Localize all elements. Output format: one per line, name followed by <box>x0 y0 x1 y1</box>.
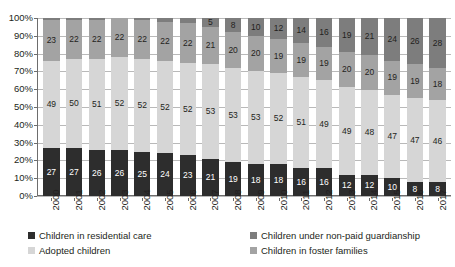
bar-column[interactable]: 274923 <box>43 18 59 196</box>
bar-segment[interactable]: 22 <box>134 20 150 59</box>
x-axis-tick-label: 2003 <box>120 189 130 210</box>
bar-segment-value-label: 24 <box>387 35 396 44</box>
bar-column[interactable]: 2153215 <box>202 18 218 196</box>
bar-segment[interactable]: 48 <box>361 90 377 175</box>
bar-segment[interactable]: 47 <box>407 98 423 182</box>
bar-segment[interactable]: 20 <box>248 36 264 71</box>
bar-column[interactable]: 2352223 <box>180 18 196 196</box>
bar-segment[interactable]: 51 <box>293 77 309 168</box>
bar-segment[interactable]: 20 <box>225 32 241 68</box>
bar-segment[interactable]: 10 <box>248 18 264 36</box>
bar-segment[interactable]: 14 <box>293 18 309 43</box>
bar-column[interactable]: 12482021 <box>361 18 377 196</box>
bar-column[interactable]: 265122 <box>89 18 105 196</box>
bar-segment-value-label: 28 <box>433 39 442 48</box>
bar-segment[interactable]: 52 <box>180 63 196 156</box>
bar-column[interactable]: 275022 <box>66 18 82 196</box>
bar-segment[interactable]: 5 <box>202 18 218 27</box>
bar-column[interactable]: 255222 <box>134 18 150 196</box>
legend-swatch-icon <box>28 232 35 239</box>
bar-segment[interactable]: 20 <box>361 55 377 90</box>
bar-segment-value-label: 8 <box>231 21 236 30</box>
x-axis-label-cell: 2002 <box>89 198 105 228</box>
bar-segment[interactable]: 21 <box>202 27 218 64</box>
bar-segment[interactable]: 22 <box>111 18 127 57</box>
bar-segment-value-label: 5 <box>208 18 213 27</box>
bar-segment[interactable]: 53 <box>202 64 218 158</box>
bar-segment[interactable]: 52 <box>111 57 127 150</box>
bar-column[interactable]: 245222 <box>157 18 173 196</box>
legend-item[interactable]: Children under non-paid guardianship <box>250 231 448 241</box>
bar-segment[interactable]: 52 <box>134 59 150 152</box>
bar-segment-value-label: 16 <box>319 28 328 37</box>
bar-segment[interactable]: 20 <box>339 52 355 88</box>
bar-segment[interactable]: 22 <box>180 23 196 62</box>
bar-segment[interactable]: 52 <box>270 73 286 165</box>
bar-segment[interactable]: 21 <box>361 18 377 55</box>
bar-segment[interactable]: 28 <box>429 18 445 68</box>
bar-segment[interactable]: 53 <box>225 68 241 162</box>
legend-item[interactable]: Adopted children <box>28 246 250 256</box>
bar-segment[interactable] <box>43 18 59 20</box>
bar-segment-value-label: 19 <box>228 175 237 184</box>
x-axis-label-cell: 2013 <box>339 198 355 228</box>
bar-segment[interactable]: 23 <box>43 20 59 61</box>
x-axis-tick-label: 2013 <box>347 189 357 210</box>
bar-segment-value-label: 52 <box>274 114 283 123</box>
bar-segment[interactable]: 19 <box>339 18 355 52</box>
bar-segment[interactable]: 24 <box>384 18 400 61</box>
x-axis-label-cell: 2015 <box>384 198 400 228</box>
bar-segment[interactable]: 19 <box>407 64 423 98</box>
bar-segment-value-label: 27 <box>69 168 78 177</box>
bar-segment[interactable]: 22 <box>89 20 105 59</box>
bar-segment[interactable]: 49 <box>339 87 355 174</box>
bar-segment[interactable] <box>66 18 82 20</box>
bar-segment[interactable]: 12 <box>270 18 286 39</box>
x-axis-tick-label: 2010 <box>279 189 289 210</box>
bar-segment[interactable]: 19 <box>293 43 309 77</box>
bar-column[interactable]: 1953208 <box>225 18 241 196</box>
bar-segment[interactable]: 47 <box>384 95 400 179</box>
bar-segment[interactable]: 49 <box>316 80 332 167</box>
bar-segment[interactable]: 49 <box>43 61 59 148</box>
bar-segment[interactable]: 19 <box>384 61 400 95</box>
bar-segment[interactable] <box>89 18 105 20</box>
bar-segment[interactable]: 53 <box>248 71 264 164</box>
bar-column[interactable]: 16511914 <box>293 18 309 196</box>
bar-segment[interactable]: 26 <box>407 18 423 64</box>
bar-segment[interactable]: 51 <box>89 59 105 150</box>
bar-segment[interactable]: 50 <box>66 59 82 148</box>
bar-segment[interactable]: 3 <box>180 18 196 23</box>
legend-item[interactable]: Children in residential care <box>28 231 250 241</box>
x-axis-tick-label: 2000 <box>51 189 61 210</box>
x-axis-tick-label: 2016 <box>415 189 425 210</box>
bar-segment[interactable]: 19 <box>316 47 332 81</box>
legend-label: Children in foster families <box>261 246 368 256</box>
bar-segment-value-label: 19 <box>297 56 306 65</box>
bar-column[interactable]: 8471926 <box>407 18 423 196</box>
bar-column[interactable]: 18532010 <box>248 18 264 196</box>
bar-segment-value-label: 19 <box>274 52 283 61</box>
bar-column[interactable]: 12492019 <box>339 18 355 196</box>
bar-segment[interactable]: 8 <box>225 18 241 32</box>
bar-segment[interactable]: 16 <box>316 18 332 46</box>
bar-column[interactable]: 18521912 <box>270 18 286 196</box>
bar-column[interactable]: 16491916 <box>316 18 332 196</box>
bar-segment[interactable]: 18 <box>429 68 445 100</box>
bar-column[interactable]: 265222 <box>111 18 127 196</box>
bar-segment[interactable] <box>134 18 150 20</box>
bar-segment[interactable]: 19 <box>270 39 286 72</box>
bar-segment-value-label: 24 <box>160 170 169 179</box>
bar-segment[interactable]: 46 <box>429 100 445 182</box>
legend-swatch-icon <box>250 232 257 239</box>
bar-segment[interactable]: 52 <box>157 61 173 154</box>
legend-item[interactable]: Children in foster families <box>250 246 448 256</box>
bar-column[interactable]: 8461828 <box>429 18 445 196</box>
bar-segment[interactable] <box>157 18 173 22</box>
bar-segment[interactable]: 22 <box>66 20 82 59</box>
bar-segment-value-label: 12 <box>365 181 374 190</box>
x-axis-tick-label: 2004 <box>142 189 152 210</box>
bar-column[interactable]: 10471924 <box>384 18 400 196</box>
bar-segment[interactable]: 22 <box>157 22 173 61</box>
x-axis-label-cell: 2000 <box>43 198 59 228</box>
